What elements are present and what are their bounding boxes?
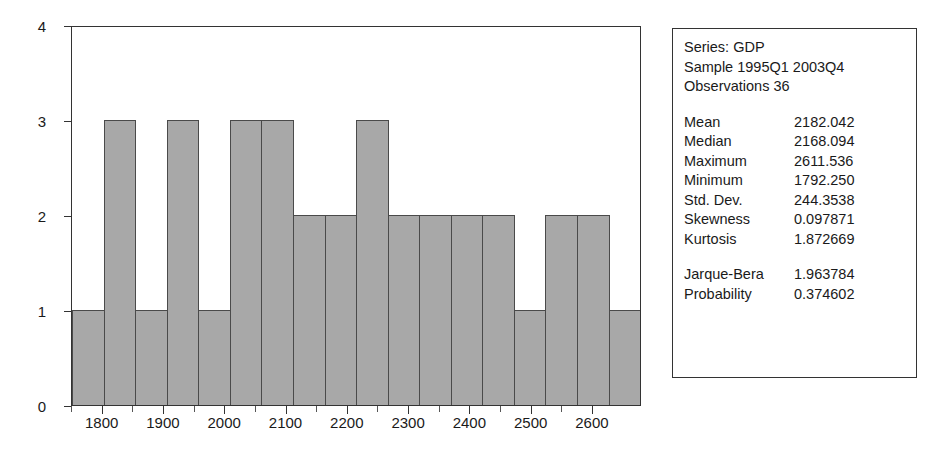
y-axis-tick: [64, 311, 71, 312]
histogram-bar: [514, 310, 547, 405]
statistic-value: 0.097871: [794, 210, 916, 230]
y-axis-tick: [64, 121, 71, 122]
histogram-bar: [451, 215, 484, 405]
histogram-bar: [261, 120, 294, 405]
histogram-bar: [388, 215, 421, 405]
sample-range-line: Sample 1995Q1 2003Q4: [684, 58, 916, 78]
histogram-bar: [356, 120, 389, 405]
y-axis-labels: 01234: [0, 26, 56, 406]
histogram-bar: [198, 310, 231, 405]
x-axis-tick: [347, 406, 348, 414]
x-axis-tick-label: 2300: [391, 414, 424, 431]
statistics-header: Series: GDP Sample 1995Q1 2003Q4 Observa…: [684, 38, 916, 97]
x-axis-minor-tick: [561, 406, 562, 412]
x-axis-tick-label: 2000: [208, 414, 241, 431]
statistic-row: Skewness0.097871: [684, 210, 916, 230]
statistic-row: Probability0.374602: [684, 285, 916, 305]
statistic-value: 244.3538: [794, 191, 916, 211]
x-axis-tick-label: 2400: [453, 414, 486, 431]
histogram-bar: [293, 215, 326, 405]
statistic-row: Kurtosis1.872669: [684, 230, 916, 250]
x-axis-tick: [102, 406, 103, 414]
x-axis-tick: [224, 406, 225, 414]
histogram-bar: [230, 120, 263, 405]
statistic-label: Median: [684, 132, 794, 152]
statistics-table: Mean2182.042Median2168.094Maximum2611.53…: [684, 113, 916, 305]
histogram-bar: [325, 215, 358, 405]
statistic-label: Maximum: [684, 152, 794, 172]
x-axis-tick: [469, 406, 470, 414]
histogram-bar: [104, 120, 137, 405]
x-axis-minor-tick: [439, 406, 440, 412]
statistic-label: Probability: [684, 285, 794, 305]
x-axis-labels: 180019002000210022002300240025002600: [71, 414, 641, 438]
x-axis-tick: [408, 406, 409, 414]
statistic-label: Skewness: [684, 210, 794, 230]
statistic-value: 2182.042: [794, 113, 916, 133]
histogram-bar: [482, 215, 515, 405]
statistics-panel: Series: GDP Sample 1995Q1 2003Q4 Observa…: [672, 28, 917, 378]
y-axis-tick-label: 4: [38, 18, 46, 35]
statistic-label: Mean: [684, 113, 794, 133]
statistic-value: 1.963784: [794, 265, 916, 285]
statistic-value: 2168.094: [794, 132, 916, 152]
x-axis-minor-tick: [132, 406, 133, 412]
spacer: [684, 97, 916, 113]
x-axis-tick-label: 1800: [85, 414, 118, 431]
x-axis-minor-tick: [255, 406, 256, 412]
x-axis-tick-label: 2600: [575, 414, 608, 431]
x-axis-tick: [286, 406, 287, 414]
x-axis-tick: [592, 406, 593, 414]
histogram-bar: [419, 215, 452, 405]
statistic-label: Jarque-Bera: [684, 265, 794, 285]
x-axis-tick-label: 2100: [269, 414, 302, 431]
histogram-bar: [135, 310, 168, 405]
statistic-label: Minimum: [684, 171, 794, 191]
histogram-bar: [577, 215, 610, 405]
statistics-separator: [684, 249, 916, 265]
histogram-bar: [545, 215, 578, 405]
histogram-bar: [609, 310, 640, 405]
x-axis-ticks: [71, 406, 641, 414]
x-axis-minor-tick: [194, 406, 195, 412]
statistic-row: Maximum2611.536: [684, 152, 916, 172]
y-axis-tick: [64, 406, 71, 407]
statistic-row: Minimum1792.250: [684, 171, 916, 191]
statistic-row: Jarque-Bera1.963784: [684, 265, 916, 285]
histogram-plot: [71, 26, 641, 406]
statistic-value: 0.374602: [794, 285, 916, 305]
plot-area: [72, 27, 640, 405]
x-axis-tick-label: 1900: [146, 414, 179, 431]
y-axis-tick: [64, 26, 71, 27]
histogram-bars: [72, 27, 640, 405]
y-axis-tick-label: 0: [38, 398, 46, 415]
statistic-row: Std. Dev.244.3538: [684, 191, 916, 211]
x-axis-tick: [163, 406, 164, 414]
y-axis-tick: [64, 216, 71, 217]
series-name-line: Series: GDP: [684, 38, 916, 58]
statistic-row: Mean2182.042: [684, 113, 916, 133]
statistic-value: 1.872669: [794, 230, 916, 250]
y-axis-tick-label: 1: [38, 303, 46, 320]
y-axis-tick-label: 3: [38, 113, 46, 130]
histogram-bar: [72, 310, 105, 405]
x-axis-minor-tick: [316, 406, 317, 412]
x-axis-tick: [531, 406, 532, 414]
statistic-row: Median2168.094: [684, 132, 916, 152]
x-axis-tick-label: 2500: [514, 414, 547, 431]
x-axis-tick-label: 2200: [330, 414, 363, 431]
histogram-bar: [167, 120, 200, 405]
statistic-value: 2611.536: [794, 152, 916, 172]
statistic-label: Std. Dev.: [684, 191, 794, 211]
statistic-label: Kurtosis: [684, 230, 794, 250]
y-axis-tick-label: 2: [38, 208, 46, 225]
x-axis-minor-tick: [71, 406, 72, 412]
histogram-report: 01234 1800190020002100220023002400250026…: [0, 0, 935, 462]
x-axis-minor-tick: [377, 406, 378, 412]
x-axis-minor-tick: [500, 406, 501, 412]
observations-line: Observations 36: [684, 77, 916, 97]
statistic-value: 1792.250: [794, 171, 916, 191]
